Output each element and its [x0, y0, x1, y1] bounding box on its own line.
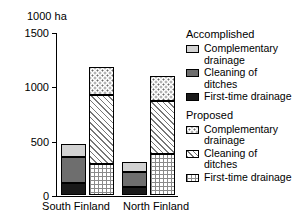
- plot-area: 1500 1000 500 0: [56, 33, 178, 196]
- bar-south-proposed: [89, 67, 114, 195]
- legend-swatch-accomplished-first-time-drainage: [186, 93, 199, 101]
- segment-south-proposed-first-time-drainage: [89, 164, 114, 196]
- legend-label-accomplished-first-time-drainage: First-time drainage: [204, 91, 292, 103]
- segment-north-proposed-complementary-drainage: [150, 76, 175, 101]
- legend-item-proposed-first-time-drainage: First-time drainage: [186, 172, 292, 184]
- legend-label-proposed-complementary-drainage: Complementary drainage: [204, 124, 292, 147]
- category-label-north-finland: North Finland: [116, 200, 196, 212]
- legend-item-proposed-complementary-drainage: Complementary drainage: [186, 124, 292, 147]
- legend-swatch-proposed-complementary-drainage: [186, 126, 199, 134]
- legend-swatch-proposed-cleaning-of-ditches: [186, 150, 199, 158]
- y-tick-mark-0: [52, 196, 56, 197]
- bar-north-proposed: [150, 76, 175, 196]
- y-tick-label-500: 500: [31, 136, 49, 147]
- legend-label-accomplished-complementary-drainage: Complementary drainage: [204, 43, 292, 66]
- segment-south-accomplished-first-time-drainage: [61, 183, 86, 196]
- legend-label-proposed-first-time-drainage: First-time drainage: [204, 172, 292, 184]
- y-tick-label-1000: 1000: [25, 82, 49, 93]
- legend-item-accomplished-complementary-drainage: Complementary drainage: [186, 43, 292, 66]
- legend-label-proposed-cleaning-of-ditches: Cleaning of ditches: [204, 148, 292, 171]
- bar-south-accomplished: [61, 144, 86, 195]
- y-tick-mark-500: [52, 142, 56, 143]
- y-axis-line: [56, 33, 57, 196]
- segment-north-accomplished-cleaning-of-ditches: [122, 172, 147, 187]
- y-tick-mark-1000: [52, 87, 56, 88]
- legend-swatch-accomplished-cleaning-of-ditches: [186, 69, 199, 77]
- legend-label-accomplished-cleaning-of-ditches: Cleaning of ditches: [204, 67, 292, 90]
- bar-north-accomplished: [122, 162, 147, 195]
- legend-item-accomplished-first-time-drainage: First-time drainage: [186, 91, 292, 103]
- legend-swatch-proposed-first-time-drainage: [186, 174, 199, 182]
- legend-group-title-proposed: Proposed: [186, 109, 292, 122]
- segment-south-proposed-cleaning-of-ditches: [89, 95, 114, 164]
- y-axis-unit-label: 1000 ha: [27, 10, 67, 23]
- legend-group-title-accomplished: Accomplished: [186, 28, 292, 41]
- segment-south-accomplished-complementary-drainage: [61, 144, 86, 157]
- segment-north-proposed-first-time-drainage: [150, 154, 175, 195]
- chart-root: 1000 ha 1500 1000 500 0: [0, 0, 292, 224]
- segment-south-proposed-complementary-drainage: [89, 67, 114, 95]
- legend-item-accomplished-cleaning-of-ditches: Cleaning of ditches: [186, 67, 292, 90]
- y-tick-mark-1500: [52, 33, 56, 34]
- legend: Accomplished Complementary drainage Clea…: [186, 28, 292, 184]
- y-tick-label-1500: 1500: [25, 28, 49, 39]
- segment-north-proposed-cleaning-of-ditches: [150, 101, 175, 154]
- x-axis-line: [56, 196, 178, 197]
- segment-south-accomplished-cleaning-of-ditches: [61, 157, 86, 183]
- segment-north-accomplished-complementary-drainage: [122, 162, 147, 172]
- segment-north-accomplished-first-time-drainage: [122, 187, 147, 195]
- legend-swatch-accomplished-complementary-drainage: [186, 45, 199, 53]
- legend-item-proposed-cleaning-of-ditches: Cleaning of ditches: [186, 148, 292, 171]
- category-label-south-finland: South Finland: [36, 200, 116, 212]
